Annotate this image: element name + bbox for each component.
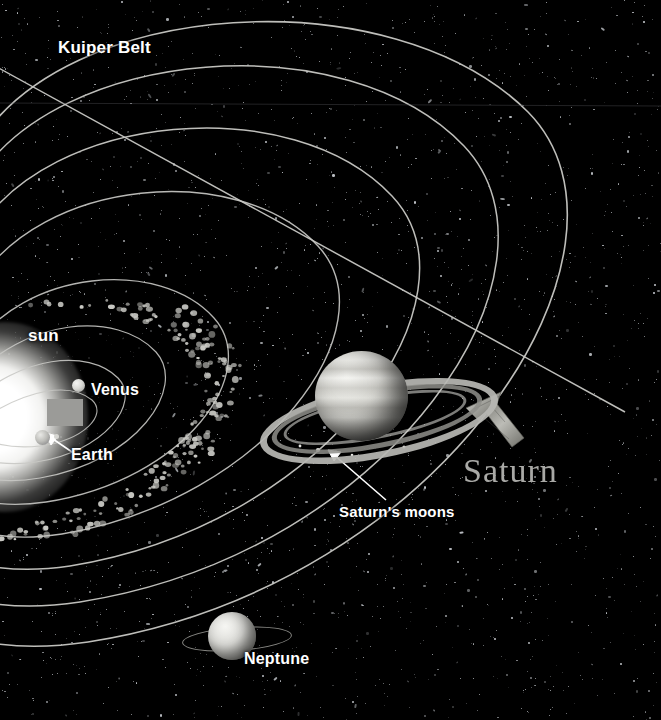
asteroid — [66, 512, 70, 515]
asteroid — [209, 331, 216, 338]
asteroid — [114, 502, 117, 505]
label-neptune: Neptune — [244, 650, 309, 668]
asteroid — [232, 347, 235, 350]
asteroid — [102, 496, 107, 501]
solar-system-diagram: Kuiper Belt sun Venus Earth Saturn's moo… — [0, 0, 661, 720]
asteroid — [154, 315, 157, 318]
asteroid — [231, 387, 235, 390]
asteroid — [161, 486, 168, 491]
asteroid — [93, 510, 96, 513]
asteroid — [203, 433, 210, 440]
asteroid — [182, 322, 187, 327]
asteroid — [185, 342, 188, 345]
asteroid — [221, 357, 227, 362]
horizon-seam — [0, 103, 661, 106]
asteroid — [139, 495, 143, 499]
asteroid — [172, 463, 179, 468]
asteroid — [188, 450, 193, 455]
label-sun: sun — [28, 326, 59, 346]
asteroid — [167, 329, 170, 332]
asteroid — [80, 305, 84, 309]
earth-moon — [54, 434, 59, 439]
asteroid — [171, 322, 177, 328]
asteroid — [190, 350, 194, 353]
asteroid — [178, 333, 182, 336]
asteroid — [204, 372, 211, 378]
asteroid — [23, 530, 28, 534]
label-kuiper-belt: Kuiper Belt — [58, 38, 151, 58]
asteroid — [203, 362, 210, 368]
asteroid — [88, 304, 91, 307]
asteroid — [183, 444, 186, 447]
asteroid — [189, 333, 196, 340]
asteroid — [192, 437, 197, 442]
label-earth: Earth — [71, 446, 113, 464]
asteroid — [162, 471, 166, 474]
asteroid — [226, 367, 232, 373]
asteroid — [173, 336, 179, 341]
asteroid — [153, 464, 159, 468]
asteroid — [98, 501, 104, 507]
asteroid — [195, 347, 200, 351]
asteroid — [185, 349, 189, 352]
asteroid — [227, 343, 232, 348]
asteroid — [130, 313, 133, 316]
asteroid — [128, 510, 133, 515]
asteroid — [108, 304, 115, 309]
asteroid — [126, 493, 130, 497]
asteroid — [73, 531, 79, 537]
asteroid — [176, 308, 182, 314]
asteroid — [40, 520, 45, 524]
asteroid — [43, 531, 50, 538]
planet-venus — [72, 379, 85, 392]
asteroid — [126, 488, 129, 491]
orbit-uranus — [0, 66, 498, 606]
asteroid — [185, 329, 188, 331]
asteroid — [181, 470, 187, 475]
asteroid — [87, 522, 94, 527]
asteroid — [214, 414, 219, 417]
asteroid — [200, 414, 204, 417]
asteroid — [133, 316, 138, 320]
asteroid — [146, 319, 149, 322]
asteroid — [200, 410, 205, 414]
label-venus: Venus — [91, 381, 139, 399]
asteroid — [35, 520, 39, 523]
asteroid — [190, 310, 197, 316]
asteroid — [178, 437, 185, 444]
asteroid — [173, 456, 177, 458]
asteroid — [166, 484, 169, 487]
planet-saturn — [252, 338, 492, 463]
asteroid — [167, 474, 171, 477]
asteroid — [193, 442, 199, 446]
asteroid — [222, 362, 226, 366]
asteroid — [218, 357, 222, 360]
saturn-body — [315, 351, 408, 441]
asteroid — [149, 487, 152, 490]
asteroid — [204, 390, 207, 393]
asteroid — [44, 300, 50, 305]
asteroid — [176, 445, 179, 447]
asteroid — [217, 360, 220, 363]
asteroid — [174, 329, 178, 333]
asteroid — [215, 381, 220, 385]
label-saturn: Saturn — [463, 452, 558, 490]
asteroid — [79, 508, 82, 511]
asteroid — [229, 391, 232, 393]
asteroid — [181, 465, 185, 468]
asteroid — [194, 454, 198, 457]
asteroid — [126, 303, 130, 306]
asteroid — [150, 318, 153, 321]
asteroid — [213, 400, 217, 404]
asteroid — [205, 343, 210, 348]
asteroid — [187, 461, 191, 465]
asteroid — [7, 534, 13, 540]
asteroid — [219, 414, 224, 418]
asteroid — [121, 307, 127, 312]
asteroid — [83, 513, 86, 516]
asteroid — [73, 508, 80, 513]
asteroid — [206, 411, 209, 413]
asteroid — [206, 402, 211, 406]
asteroid — [196, 362, 202, 369]
asteroid — [232, 376, 239, 383]
